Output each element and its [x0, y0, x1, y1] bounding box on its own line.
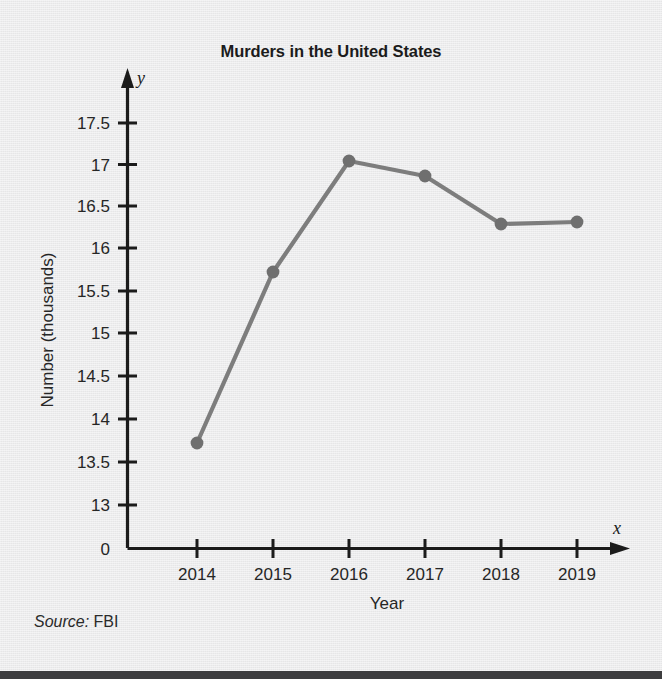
y-tick-label: 13	[91, 496, 110, 515]
x-tick-label: 2018	[482, 565, 520, 584]
y-axis-variable-label: y	[135, 68, 145, 88]
bottom-rule-divider	[0, 671, 662, 679]
y-axis	[121, 68, 134, 548]
y-tick-label: 14	[91, 410, 110, 429]
data-point-2019[interactable]	[571, 216, 584, 229]
data-point-2016[interactable]	[343, 155, 356, 168]
source-note: Source: FBI	[34, 613, 118, 631]
y-tick-label: 17.5	[77, 114, 110, 133]
x-tick-label: 2019	[558, 565, 596, 584]
data-point-2015[interactable]	[267, 266, 280, 279]
y-axis-title: Number (thousands)	[38, 253, 57, 408]
y-tick-label: 16	[91, 239, 110, 258]
data-points	[191, 155, 584, 450]
y-tick-label: 15	[91, 324, 110, 343]
y-axis-tick-labels: 17.5 17 16.5 16 15.5 15 14.5 14 13.5 13 …	[77, 114, 110, 559]
x-tick-label: 2017	[406, 565, 444, 584]
data-point-2018[interactable]	[495, 218, 508, 231]
x-tick-label: 2015	[254, 565, 292, 584]
source-label: Source:	[34, 613, 89, 630]
data-point-2017[interactable]	[419, 170, 432, 183]
chart-plot-area: y x 17.5 17 16.5 16 15.5	[0, 0, 662, 671]
x-axis-title: Year	[370, 594, 405, 613]
x-axis-tick-labels: 2014 2015 2016 2017 2018 2019	[178, 565, 596, 584]
data-line-murders	[197, 161, 577, 443]
x-axis-variable-label: x	[612, 518, 621, 538]
source-value: FBI	[94, 613, 119, 630]
y-tick-label: 13.5	[77, 453, 110, 472]
y-tick-label: 14.5	[77, 367, 110, 386]
y-tick-label: 15.5	[77, 282, 110, 301]
data-point-2014[interactable]	[191, 437, 204, 450]
x-tick-label: 2014	[178, 565, 216, 584]
y-tick-label: 17	[91, 156, 110, 175]
x-tick-label: 2016	[330, 565, 368, 584]
line-chart-figure: Murders in the United States y x	[0, 0, 662, 671]
y-tick-label: 16.5	[77, 197, 110, 216]
x-axis	[128, 542, 631, 555]
figure-page: Murders in the United States y x	[0, 0, 662, 679]
y-axis-origin-label: 0	[101, 540, 110, 559]
